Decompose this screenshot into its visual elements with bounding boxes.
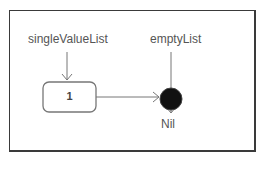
nil-terminal-icon [160, 88, 182, 110]
list-node-value: 1 [43, 90, 96, 102]
nil-label: Nil [161, 117, 175, 131]
diagram-connectors [0, 0, 264, 169]
